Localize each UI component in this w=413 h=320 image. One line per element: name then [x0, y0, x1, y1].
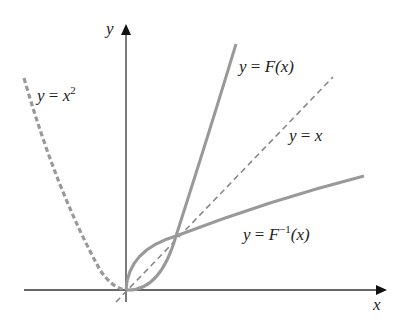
label-eq: = [255, 225, 265, 244]
label-fn: F [269, 225, 279, 244]
x-axis-arrow-icon [376, 285, 387, 295]
inverse-label: y = F−1(x) [243, 224, 310, 243]
label-eq: = [301, 126, 311, 145]
label-lhs: y [289, 126, 297, 145]
label-fn: F [265, 57, 275, 76]
identity-label: y = x [289, 127, 322, 144]
label-lhs: y [37, 86, 45, 105]
function-label: y = F(x) [239, 58, 294, 75]
label-rhs: x [315, 126, 323, 145]
label-exponent: 2 [70, 84, 76, 96]
label-arg: (x) [275, 57, 294, 76]
label-eq: = [251, 57, 261, 76]
graph-canvas [0, 0, 413, 320]
parabola-label: y = x2 [37, 85, 76, 104]
parabola-curve [24, 78, 126, 290]
label-lhs: y [243, 225, 251, 244]
label-arg: (x) [291, 225, 310, 244]
x-axis-label: x [373, 296, 381, 313]
y-axis-label: y [106, 20, 114, 37]
identity-line [116, 77, 333, 302]
label-eq: = [49, 86, 59, 105]
label-lhs: y [239, 57, 247, 76]
y-axis-arrow-icon [121, 24, 131, 35]
label-exponent: −1 [279, 223, 291, 235]
